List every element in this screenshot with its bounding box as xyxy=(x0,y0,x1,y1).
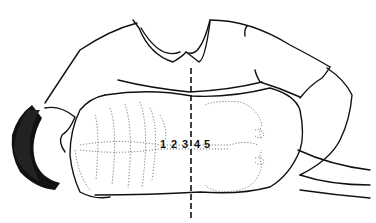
spine-dotted-outline xyxy=(75,101,264,191)
assistant-left-shoulder xyxy=(45,23,137,103)
assistant-collar xyxy=(133,20,210,62)
assistant-right-sleeve xyxy=(300,67,330,98)
patient-hair xyxy=(12,105,60,190)
lumbar-puncture-illustration xyxy=(0,0,376,223)
patient-back-outline xyxy=(70,95,110,198)
assistant-right-shoulder xyxy=(210,20,330,67)
